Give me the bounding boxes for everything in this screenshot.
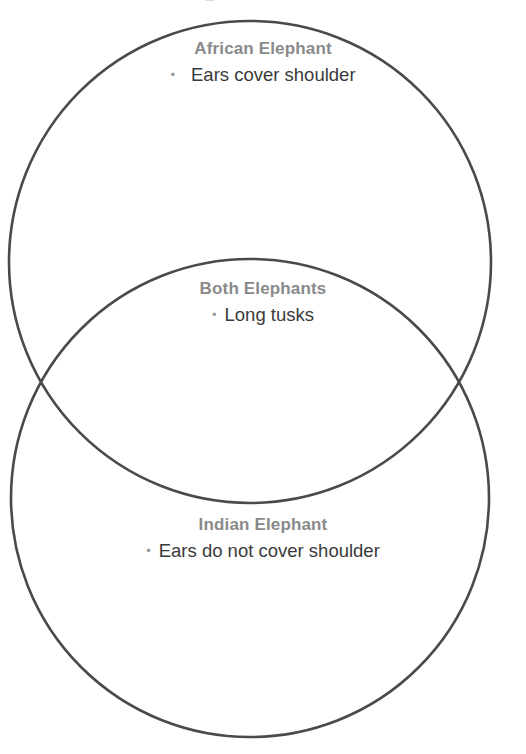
bullet-text-indian-elephant-0: Ears do not cover shoulder: [159, 540, 380, 561]
region-title-both-elephants: Both Elephants: [0, 278, 526, 300]
bullet-dot-icon: •: [146, 543, 151, 558]
bullet-text-both-elephants-0: Long tusks: [225, 304, 314, 325]
bullet-text-african-elephant-0: Ears cover shoulder: [191, 64, 356, 85]
region-both-elephants: Both Elephants •Long tusks: [0, 278, 526, 328]
region-title-african-elephant: African Elephant: [0, 38, 526, 60]
bullet-item-african-elephant-0: •Ears cover shoulder: [0, 62, 526, 88]
bullet-item-both-elephants-0: •Long tusks: [0, 302, 526, 328]
venn-text-layer: African Elephant •Ears cover shoulder Bo…: [0, 0, 526, 754]
bullet-dot-icon: •: [212, 307, 217, 322]
region-african-elephant: African Elephant •Ears cover shoulder: [0, 38, 526, 88]
region-title-indian-elephant: Indian Elephant: [0, 514, 526, 536]
venn-diagram: African Elephant •Ears cover shoulder Bo…: [0, 0, 526, 754]
bullet-dot-icon: •: [170, 67, 175, 82]
bullet-item-indian-elephant-0: •Ears do not cover shoulder: [0, 538, 526, 564]
region-indian-elephant: Indian Elephant •Ears do not cover shoul…: [0, 514, 526, 564]
